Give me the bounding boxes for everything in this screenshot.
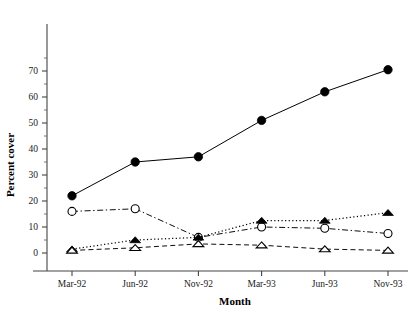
data-point-filled-circle (257, 116, 265, 124)
data-point-filled-circle (194, 153, 202, 161)
y-tick-label: 20 (29, 196, 39, 206)
data-point-open-triangle (193, 241, 204, 247)
data-point-open-circle (131, 205, 139, 213)
x-tick-label: Mar-93 (247, 279, 276, 289)
data-point-filled-triangle (256, 217, 267, 223)
y-tick-label: 50 (29, 118, 39, 128)
chart-figure: 010203040506070 Mar-92Jun-92Nov-92Mar-93… (0, 0, 420, 313)
data-point-filled-circle (131, 158, 139, 166)
x-tick-label: Mar-92 (58, 279, 87, 289)
x-tick-label: Jun-92 (122, 279, 148, 289)
y-tick-label: 0 (33, 248, 38, 258)
data-point-filled-circle (68, 192, 76, 200)
y-tick-label: 70 (29, 66, 39, 76)
x-axis-title: Month (219, 295, 251, 307)
series-line (72, 213, 388, 249)
y-tick-label: 40 (29, 144, 39, 154)
data-point-open-circle (258, 223, 266, 231)
series-open-circle (68, 205, 392, 242)
data-point-filled-circle (384, 66, 392, 74)
data-point-filled-circle (321, 88, 329, 96)
x-tick-label: Jun-93 (312, 279, 338, 289)
x-tick-label: Nov-93 (373, 279, 402, 289)
data-point-filled-triangle (130, 237, 141, 243)
y-tick-label: 60 (29, 92, 39, 102)
y-axis-title: Percent cover (4, 133, 16, 197)
x-axis: Mar-92Jun-92Nov-92Mar-93Jun-93Nov-93 (33, 271, 408, 289)
data-point-filled-triangle (383, 209, 394, 215)
series-filled-circle (68, 66, 392, 201)
x-tick-label: Nov-92 (184, 279, 213, 289)
series-line (72, 209, 388, 238)
data-point-open-circle (321, 224, 329, 232)
data-series-group (67, 66, 394, 254)
data-point-open-triangle (256, 242, 267, 248)
y-tick-label: 30 (29, 170, 39, 180)
chart-plot-area: 010203040506070 Mar-92Jun-92Nov-92Mar-93… (0, 0, 420, 313)
y-tick-label: 10 (29, 222, 39, 232)
series-filled-triangle (67, 209, 394, 251)
y-axis: 010203040506070 (29, 24, 48, 271)
data-point-open-circle (384, 230, 392, 238)
data-point-open-circle (68, 207, 76, 215)
series-line (72, 244, 388, 251)
series-line (72, 70, 388, 196)
